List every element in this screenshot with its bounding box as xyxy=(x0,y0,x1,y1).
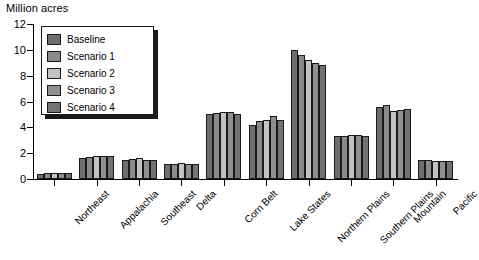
bar xyxy=(185,164,192,180)
bar-group xyxy=(334,24,369,179)
x-axis-category-label: Appalachia xyxy=(117,188,160,231)
y-axis-label-slot: 8 xyxy=(0,71,26,81)
bar xyxy=(107,156,114,179)
bar xyxy=(37,174,44,179)
legend-item[interactable]: Baseline xyxy=(47,31,153,47)
legend-swatch-icon xyxy=(47,85,61,96)
bar xyxy=(341,136,348,179)
legend-item[interactable]: Scenario 1 xyxy=(47,48,153,64)
y-axis-label-slot: 4 xyxy=(0,122,26,132)
x-axis-category-label: Northeast xyxy=(73,188,111,226)
y-axis-tick-label: 6 xyxy=(2,97,26,107)
bar xyxy=(79,158,86,179)
x-axis-tick xyxy=(54,180,55,186)
y-axis-tick-label: 0 xyxy=(2,174,26,184)
legend-label: Scenario 4 xyxy=(67,102,115,113)
x-axis-tick xyxy=(436,180,437,186)
x-axis-category-label: Delta xyxy=(194,188,218,212)
bar xyxy=(291,50,298,179)
x-axis-tick xyxy=(266,180,267,186)
x-axis-tick xyxy=(393,180,394,186)
bar-group xyxy=(291,24,326,179)
bar xyxy=(213,113,220,179)
legend-swatch-icon xyxy=(47,51,61,62)
bar xyxy=(178,163,185,179)
legend-swatch-icon xyxy=(47,34,61,45)
bar xyxy=(319,65,326,179)
bar xyxy=(418,160,425,179)
bar xyxy=(65,173,72,179)
x-axis-category-label: Lake States xyxy=(287,188,332,233)
bar-group xyxy=(249,24,284,179)
x-axis-tick xyxy=(139,180,140,186)
legend-swatch-icon xyxy=(47,102,61,113)
x-axis-tick xyxy=(351,180,352,186)
chart-legend: BaselineScenario 1Scenario 2Scenario 3Sc… xyxy=(41,26,154,115)
bar xyxy=(425,160,432,179)
y-axis-tick xyxy=(27,179,33,180)
bar xyxy=(334,136,341,179)
legend-swatch-icon xyxy=(47,68,61,79)
bar xyxy=(270,116,277,179)
y-axis-label-slot: 10 xyxy=(0,45,26,55)
bar xyxy=(206,114,213,179)
bar xyxy=(93,156,100,179)
bar xyxy=(220,112,227,179)
legend-item[interactable]: Scenario 3 xyxy=(47,82,153,98)
bar-group xyxy=(164,24,199,179)
bar xyxy=(263,120,270,179)
y-axis-label-slot: 12 xyxy=(0,19,26,29)
y-axis-tick-label: 4 xyxy=(2,122,26,132)
bar xyxy=(404,109,411,179)
bar-group xyxy=(206,24,241,179)
x-axis-category-label: Corn Belt xyxy=(242,188,279,225)
bar xyxy=(446,161,453,179)
bar xyxy=(305,60,312,179)
bar xyxy=(439,161,446,179)
bar xyxy=(192,164,199,179)
bar xyxy=(164,164,171,179)
bar-group xyxy=(418,24,453,179)
y-axis-tick-label: 10 xyxy=(2,45,26,55)
bar xyxy=(249,125,256,179)
bar xyxy=(143,160,150,179)
bar xyxy=(376,107,383,179)
bar xyxy=(129,159,136,179)
bar xyxy=(355,135,362,179)
bar xyxy=(312,63,319,179)
y-axis-title: Million acres xyxy=(6,2,68,14)
bar xyxy=(397,110,404,179)
bar xyxy=(150,160,157,179)
bar xyxy=(348,135,355,179)
bar xyxy=(362,136,369,179)
y-axis-tick-label: 2 xyxy=(2,148,26,158)
x-axis-tick xyxy=(181,180,182,186)
legend-item[interactable]: Scenario 2 xyxy=(47,65,153,81)
bar xyxy=(227,112,234,179)
bar xyxy=(277,120,284,179)
bar xyxy=(298,55,305,179)
bar xyxy=(256,121,263,179)
bar xyxy=(234,114,241,179)
y-axis-label-slot: 0 xyxy=(0,174,26,184)
x-axis-tick xyxy=(224,180,225,186)
y-axis-label-slot: 6 xyxy=(0,97,26,107)
y-axis-tick-label: 12 xyxy=(2,19,26,29)
bar xyxy=(432,161,439,179)
legend-label: Baseline xyxy=(67,34,105,45)
x-axis-tick xyxy=(309,180,310,186)
bar xyxy=(58,173,65,179)
bar xyxy=(383,105,390,179)
x-axis-category-label: Pacific xyxy=(451,188,479,217)
y-axis-tick-label: 8 xyxy=(2,71,26,81)
bar xyxy=(122,160,129,179)
y-axis-label-slot: 2 xyxy=(0,148,26,158)
x-axis-category-label: Southeast xyxy=(158,188,198,228)
legend-item[interactable]: Scenario 4 xyxy=(47,99,153,115)
legend-label: Scenario 1 xyxy=(67,51,115,62)
bar xyxy=(51,173,58,179)
bar xyxy=(171,164,178,180)
bar xyxy=(44,173,51,179)
legend-label: Scenario 2 xyxy=(67,68,115,79)
